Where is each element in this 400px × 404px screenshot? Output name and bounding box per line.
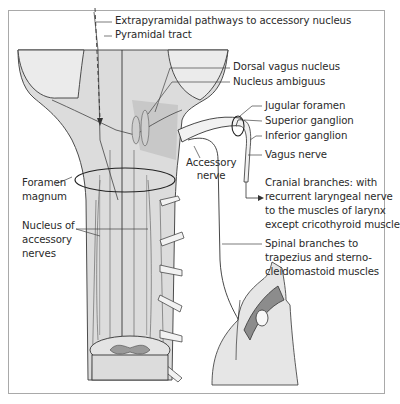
label-inferior-ganglion: Inferior ganglion — [265, 130, 347, 143]
label-vagus-nerve: Vagus nerve — [265, 149, 327, 162]
label-cranial-branches-4: except cricothyroid muscle — [265, 219, 400, 232]
label-accessory-nerve-2: nerve — [186, 170, 236, 183]
label-foramen-magnum-2: magnum — [22, 191, 67, 204]
label-nucleus-accessory-1: Nucleus of — [22, 220, 75, 233]
brainstem — [18, 50, 228, 380]
label-pyramidal-tract: Pyramidal tract — [115, 29, 192, 42]
label-cranial-branches-2: recurrent laryngeal nerve — [265, 191, 393, 204]
label-cranial-branches-1: Cranial branches: with — [265, 177, 377, 190]
figure-silhouette — [212, 262, 298, 385]
label-extrapyramidal: Extrapyramidal pathways to accessory nuc… — [115, 15, 351, 28]
label-nucleus-accessory-3: nerves — [22, 248, 56, 261]
label-accessory-nerve-1: Accessory — [186, 157, 236, 170]
label-superior-ganglion: Superior ganglion — [265, 115, 354, 128]
label-spinal-branches-3: cleidomastoid muscles — [265, 266, 379, 279]
label-jugular-foramen: Jugular foramen — [265, 100, 345, 113]
label-spinal-branches-2: trapezius and sterno- — [265, 252, 372, 265]
label-nucleus-ambiguus: Nucleus ambiguus — [233, 76, 325, 89]
label-spinal-branches-1: Spinal branches to — [265, 238, 358, 251]
label-dorsal-vagus-nucleus: Dorsal vagus nucleus — [233, 61, 340, 74]
label-cranial-branches-3: to the muscles of larynx — [265, 205, 386, 218]
label-nucleus-accessory-2: accessory — [22, 234, 72, 247]
label-foramen-magnum-1: Foramen — [22, 177, 66, 190]
